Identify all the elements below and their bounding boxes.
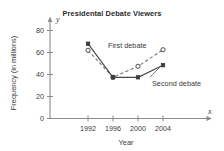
chart-title: Presidental Debate Viewers [63, 9, 162, 18]
x-tick-label-2000: 2000 [130, 124, 146, 133]
data-point [86, 48, 90, 52]
series-label-first-debate: First debate [108, 41, 147, 50]
x-axis [50, 116, 212, 121]
y-tick-label-80: 80 [36, 26, 44, 35]
y-tick-label-20: 20 [36, 92, 44, 101]
data-point [161, 64, 164, 67]
data-point [161, 48, 165, 52]
data-point [86, 42, 89, 45]
x-tick-label-2004: 2004 [155, 124, 171, 133]
x-axis-variable: x [207, 107, 212, 116]
data-point [136, 64, 140, 68]
x-tick-label-1992: 1992 [80, 124, 96, 133]
y-tick-label-60: 60 [36, 48, 44, 57]
series-label-second-debate: Second debate [152, 79, 201, 88]
data-point [111, 76, 114, 79]
y-axis-title: Frequency (in millions) [9, 36, 18, 110]
x-tick-label-1996: 1996 [105, 124, 121, 133]
y-tick-label-0: 0 [40, 114, 44, 123]
y-tick-label-40: 40 [36, 70, 44, 79]
x-axis-title: Year [119, 138, 134, 147]
y-axis [48, 17, 53, 119]
data-point [136, 76, 139, 79]
y-axis-arrow-icon [48, 17, 53, 23]
annotation-second-debate: Second debate [150, 67, 201, 88]
y-axis-variable: y [55, 15, 60, 24]
annotation-first-debate: First debate [108, 41, 147, 50]
series-first-debate [86, 48, 165, 80]
chart-container: Presidental Debate Viewers y x 0 20 40 6… [0, 0, 224, 151]
x-axis-arrow-icon [207, 116, 213, 121]
